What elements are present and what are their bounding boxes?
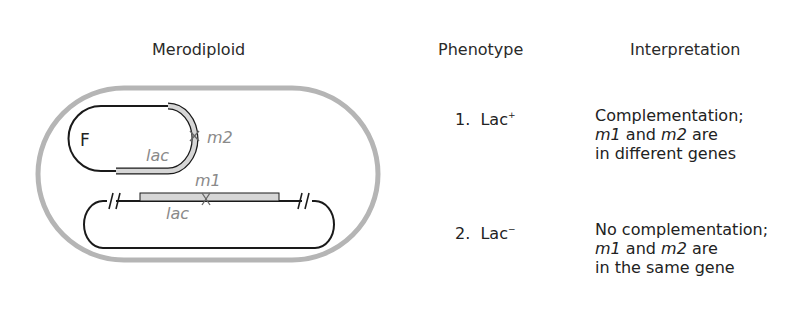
chromosome-break-right bbox=[298, 193, 309, 209]
m1-label: m1 bbox=[195, 171, 221, 190]
f-label: F bbox=[80, 130, 90, 150]
m2-label: m2 bbox=[207, 128, 233, 147]
chrom-lac-label: lac bbox=[166, 204, 189, 223]
chromosome-break-left bbox=[109, 193, 120, 209]
f-lac-label: lac bbox=[146, 146, 169, 165]
row-1-phenotype: 1. Lac+ bbox=[455, 106, 516, 129]
row-2-phenotype: 2. Lac− bbox=[455, 220, 516, 243]
row-2-interpretation: No complementation; m1 and m2 are in the… bbox=[595, 220, 768, 277]
row-1-interpretation: Complementation; m1 and m2 are in differ… bbox=[595, 106, 744, 163]
chromosome-left-arc bbox=[84, 201, 334, 248]
